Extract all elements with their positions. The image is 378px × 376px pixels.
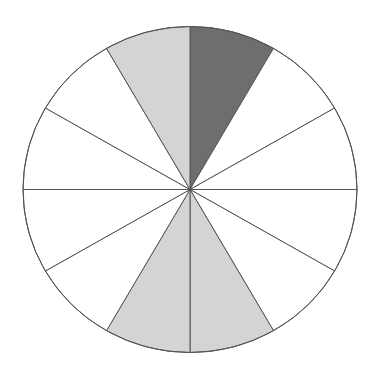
fraction-circle-diagram	[0, 0, 378, 376]
fraction-circle	[0, 0, 378, 376]
